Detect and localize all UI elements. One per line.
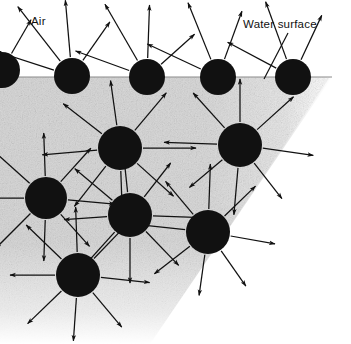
force-arrow (12, 20, 32, 54)
interior-molecule (98, 126, 142, 170)
label-water-surface: Water surface (243, 18, 317, 30)
surface-molecule (200, 59, 236, 95)
surface-tension-diagram: Air Water surface (0, 0, 351, 344)
interior-molecule (56, 253, 100, 297)
surface-molecule (54, 58, 90, 94)
force-arrow (65, 0, 70, 57)
force-arrow (148, 5, 150, 58)
interior-molecule (218, 123, 262, 167)
label-air: Air (31, 15, 46, 27)
interior-molecule (108, 193, 152, 237)
surface-molecule (129, 59, 165, 95)
force-arrow (228, 42, 277, 68)
force-arrow (161, 34, 194, 64)
interior-molecule (186, 210, 230, 254)
interior-molecule (25, 177, 67, 219)
force-arrow (224, 11, 241, 59)
force-arrow (105, 4, 138, 60)
surface-molecule (275, 59, 311, 95)
force-arrow (266, 2, 287, 59)
diagram-canvas (0, 0, 351, 344)
force-arrow (188, 3, 211, 60)
